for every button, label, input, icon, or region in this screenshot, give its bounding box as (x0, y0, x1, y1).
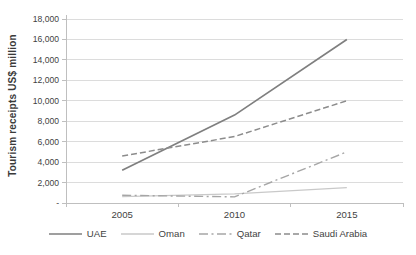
x-tick-label: 2005 (111, 209, 132, 220)
legend: UAEOmanQatarSaudi Arabia (0, 228, 416, 239)
series-line-saudi-arabia (122, 101, 347, 156)
legend-item-qatar: Qatar (199, 228, 261, 239)
x-tick-label: 2010 (224, 209, 245, 220)
plot-area: -2,0004,0006,0008,00010,00012,00014,0001… (0, 0, 416, 226)
gridlines (66, 19, 403, 183)
x-tick-label: 2015 (336, 209, 357, 220)
legend-label: Saudi Arabia (313, 228, 367, 239)
legend-label: Oman (159, 228, 185, 239)
legend-item-saudi-arabia: Saudi Arabia (275, 228, 367, 239)
y-tick-label: 18,000 (33, 14, 60, 24)
y-tick-label: 14,000 (33, 55, 60, 65)
y-tick-label: 16,000 (33, 34, 60, 44)
tourism-receipts-chart: Tourism receipts US$ million -2,0004,000… (0, 0, 416, 255)
legend-line-sample (275, 231, 308, 237)
axes (66, 15, 403, 203)
y-tick-label: 6,000 (37, 137, 59, 147)
y-tick-label: - (56, 198, 59, 208)
series-line-oman (122, 188, 347, 197)
y-tick-label: 12,000 (33, 75, 60, 85)
y-tick-labels: -2,0004,0006,0008,00010,00012,00014,0001… (33, 14, 66, 208)
series-line-uae (122, 39, 347, 170)
legend-item-oman: Oman (121, 228, 185, 239)
series-lines (122, 39, 347, 196)
y-tick-label: 2,000 (37, 178, 59, 188)
y-axis-title: Tourism receipts US$ million (7, 6, 18, 206)
legend-line-sample (199, 231, 232, 237)
legend-item-uae: UAE (49, 228, 107, 239)
y-tick-label: 8,000 (37, 116, 59, 126)
y-tick-label: 4,000 (37, 157, 59, 167)
legend-label: UAE (87, 228, 107, 239)
legend-line-sample (121, 231, 154, 237)
y-tick-label: 10,000 (33, 96, 60, 106)
legend-line-sample (49, 231, 82, 237)
legend-label: Qatar (237, 228, 261, 239)
x-tick-labels: 200520102015 (66, 203, 403, 220)
